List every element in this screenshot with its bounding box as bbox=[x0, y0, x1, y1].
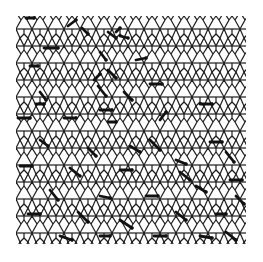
marked-edge-endpoint bbox=[210, 102, 214, 106]
tiling-area bbox=[16, 16, 246, 244]
marked-edge-endpoint bbox=[74, 18, 78, 22]
marked-edge-endpoint bbox=[104, 94, 108, 98]
marked-edge-endpoint bbox=[204, 190, 208, 194]
marked-edge-endpoint bbox=[144, 56, 148, 60]
marked-edge-endpoint bbox=[188, 178, 192, 182]
marked-edge-endpoint bbox=[108, 234, 112, 238]
marked-edge-endpoint bbox=[220, 140, 224, 144]
marked-edge-endpoint bbox=[184, 218, 188, 222]
marked-edge-endpoint bbox=[164, 234, 168, 238]
marked-edge-endpoint bbox=[114, 120, 118, 124]
marked-edge-endpoint bbox=[234, 238, 238, 242]
marked-edge-endpoint bbox=[158, 148, 162, 152]
marked-edge-endpoint bbox=[46, 144, 50, 148]
marked-edge-endpoint bbox=[94, 154, 98, 158]
marked-edge-endpoint bbox=[38, 212, 42, 216]
marked-edge-endpoint bbox=[224, 212, 228, 216]
marked-edge-endpoint bbox=[32, 16, 36, 20]
marked-edge-endpoint bbox=[156, 194, 160, 198]
marked-edge-endpoint bbox=[74, 116, 78, 120]
marked-edge-endpoint bbox=[130, 168, 134, 172]
marked-edge bbox=[200, 236, 212, 238]
marked-edge-endpoint bbox=[56, 46, 60, 50]
marked-edge-endpoint bbox=[108, 196, 112, 200]
marked-edge-endpoint bbox=[114, 76, 118, 80]
marked-edge-endpoint bbox=[30, 164, 34, 168]
marked-edge-endpoint bbox=[86, 32, 90, 36]
marked-edge-endpoint bbox=[164, 110, 168, 114]
marked-edge-endpoint bbox=[242, 202, 246, 206]
marked-edge-endpoint bbox=[110, 108, 114, 112]
marked-edge-endpoint bbox=[56, 198, 60, 202]
marked-edge-endpoint bbox=[44, 98, 48, 102]
marked-edge-endpoint bbox=[130, 226, 134, 230]
marked-edge-endpoint bbox=[240, 178, 244, 182]
marked-edge-endpoint bbox=[130, 98, 134, 102]
marked-edge-endpoint bbox=[78, 174, 82, 178]
marked-edge-endpoint bbox=[138, 150, 142, 154]
marked-edge-endpoint bbox=[160, 82, 164, 86]
marked-edge-endpoint bbox=[86, 220, 90, 224]
marked-edge-endpoint bbox=[28, 116, 32, 120]
marked-edge-endpoint bbox=[42, 102, 46, 106]
marked-edge-endpoint bbox=[36, 64, 40, 68]
marked-edge-endpoint bbox=[210, 236, 214, 240]
tiling-figure bbox=[0, 0, 263, 262]
marked-edge-endpoint bbox=[104, 58, 108, 62]
marked-edge-endpoint bbox=[232, 160, 236, 164]
marked-edge-endpoint bbox=[118, 26, 122, 30]
marked-edge-endpoint bbox=[184, 162, 188, 166]
marked-edge-endpoint bbox=[114, 36, 118, 40]
marked-edge-endpoint bbox=[70, 238, 74, 242]
marked-edge-endpoint bbox=[98, 72, 102, 76]
marked-edge-endpoint bbox=[126, 36, 130, 40]
